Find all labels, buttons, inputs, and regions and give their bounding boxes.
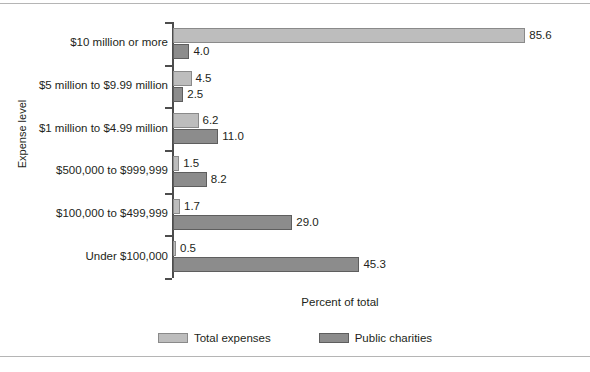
- bar-value-label: 6.2: [203, 114, 219, 126]
- legend-swatch-total-expenses: [158, 333, 188, 343]
- bar-public-charities: [173, 44, 189, 59]
- category-label: $5 million to $9.99 million: [8, 79, 168, 92]
- bar-total-expenses: [173, 113, 199, 128]
- bar-value-label: 1.7: [184, 200, 200, 212]
- axis-tick: [165, 150, 172, 152]
- legend-item-total-expenses: Total expenses: [158, 332, 271, 344]
- top-divider-rule: [0, 3, 590, 4]
- bar-value-label: 29.0: [296, 216, 318, 228]
- bar-value-label: 8.2: [211, 173, 227, 185]
- bar-total-expenses: [173, 241, 176, 256]
- chart-legend: Total expenses Public charities: [0, 332, 590, 344]
- legend-swatch-public-charities: [319, 333, 349, 343]
- legend-label-total-expenses: Total expenses: [194, 332, 271, 344]
- bar-total-expenses: [173, 28, 525, 43]
- bar-public-charities: [173, 87, 183, 102]
- bar-value-label: 11.0: [222, 130, 244, 142]
- axis-tick: [165, 193, 172, 195]
- axis-tick: [165, 235, 172, 237]
- bar-value-label: 1.5: [183, 157, 199, 169]
- legend-label-public-charities: Public charities: [355, 332, 432, 344]
- bar-public-charities: [173, 215, 292, 230]
- legend-item-public-charities: Public charities: [319, 332, 432, 344]
- category-label: $100,000 to $499,999: [8, 207, 168, 220]
- bottom-divider-rule: [0, 356, 590, 357]
- bar-value-label: 4.0: [193, 45, 209, 57]
- axis-tick: [165, 278, 172, 280]
- category-label: Under $100,000: [8, 250, 168, 263]
- bar-value-label: 45.3: [363, 258, 385, 270]
- x-axis-title: Percent of total: [280, 296, 400, 308]
- category-label: $500,000 to $999,999: [8, 164, 168, 177]
- bar-value-label: 85.6: [529, 29, 551, 41]
- category-label: $10 million or more: [8, 36, 168, 49]
- bar-public-charities: [173, 257, 359, 272]
- plot-area: 85.64.04.52.56.211.01.58.21.729.00.545.3: [173, 22, 541, 278]
- bar-value-label: 2.5: [187, 88, 203, 100]
- bar-public-charities: [173, 129, 218, 144]
- bar-total-expenses: [173, 156, 179, 171]
- chart-figure: Expense level $10 million or more$5 mill…: [0, 0, 590, 372]
- bar-total-expenses: [173, 71, 192, 86]
- category-label-column: $10 million or more$5 million to $9.99 m…: [4, 22, 168, 278]
- bar-value-label: 0.5: [180, 242, 196, 254]
- category-label: $1 million to $4.99 million: [8, 122, 168, 135]
- bar-public-charities: [173, 172, 207, 187]
- bar-value-label: 4.5: [196, 72, 212, 84]
- bar-total-expenses: [173, 199, 180, 214]
- axis-tick: [165, 107, 172, 109]
- axis-tick: [165, 22, 172, 24]
- axis-tick: [165, 65, 172, 67]
